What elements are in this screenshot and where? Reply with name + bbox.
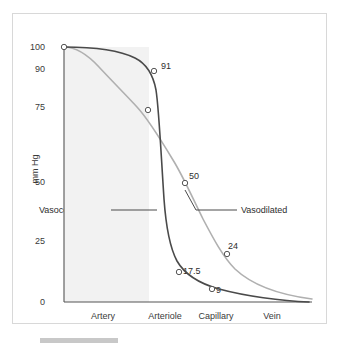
marker-76 [145, 107, 150, 112]
marker-50 [182, 180, 187, 185]
artery-shaded-band [64, 47, 149, 302]
marker-24 [224, 251, 229, 256]
figure-panel: mm Hg 100 90 75 50 25 0 Artery Arteriole… [12, 13, 327, 324]
caption-strip [0, 336, 341, 348]
marker-17-5 [176, 269, 181, 274]
marker-9 [209, 286, 214, 291]
marker-91 [151, 68, 156, 73]
caption-color-bar [40, 338, 118, 343]
chart-plot-area [13, 14, 328, 325]
marker-origin-100 [61, 44, 66, 49]
